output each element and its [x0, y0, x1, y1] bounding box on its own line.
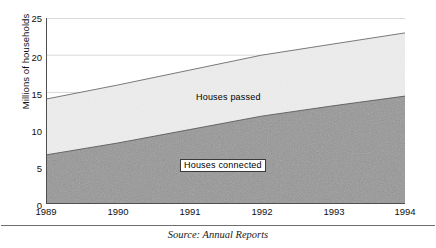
- chart-figure: Millions of households 0 5 10 15 20 25 1…: [0, 0, 436, 248]
- y-tick-label-20: 20: [24, 53, 42, 63]
- x-tick-label-1992: 1992: [242, 207, 282, 217]
- x-tick-label-1993: 1993: [314, 207, 354, 217]
- y-tick-label-15: 15: [24, 90, 42, 100]
- y-tick-label-25: 25: [24, 14, 42, 24]
- x-tick-label-1994: 1994: [385, 207, 425, 217]
- x-tick-label-1990: 1990: [98, 207, 138, 217]
- y-tick-label-10: 10: [24, 127, 42, 137]
- series-label-houses-connected: Houses connected: [180, 159, 266, 172]
- x-tick-label-1989: 1989: [26, 207, 66, 217]
- footer-divider: [1, 225, 435, 226]
- stacked-area-plot: [46, 18, 405, 204]
- series-label-houses-passed: Houses passed: [196, 92, 261, 102]
- source-note: Source: Annual Reports: [0, 229, 436, 240]
- y-tick-label-5: 5: [24, 164, 42, 174]
- x-tick-label-1991: 1991: [170, 207, 210, 217]
- plot-area: [46, 18, 405, 204]
